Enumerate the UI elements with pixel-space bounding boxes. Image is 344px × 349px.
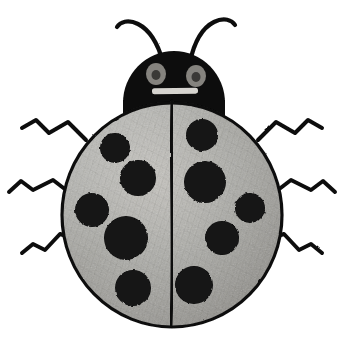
drawing-canvas: Hand-drawn pencil sketch of a ladybug wi… <box>0 0 344 349</box>
spot-left-3 <box>75 193 109 227</box>
spot-right-5 <box>175 266 213 304</box>
left-eye-pupil <box>152 70 161 80</box>
spot-right-3 <box>235 193 265 223</box>
spot-left-5 <box>115 270 151 306</box>
wing-midline <box>171 101 172 326</box>
ladybug-illustration <box>0 0 344 349</box>
spot-right-4 <box>205 221 239 255</box>
spot-left-2 <box>120 160 156 196</box>
spot-left-4 <box>104 216 148 260</box>
right-eye-pupil <box>192 72 201 82</box>
spot-right-2 <box>184 161 226 203</box>
spot-right-1 <box>186 119 218 151</box>
spot-left-1 <box>100 133 130 163</box>
mouth <box>152 88 198 95</box>
